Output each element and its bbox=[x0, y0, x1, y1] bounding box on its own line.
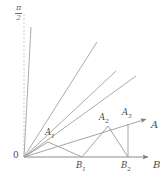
ray-4 bbox=[24, 76, 136, 157]
point-label-a1-subscript: 1 bbox=[51, 133, 54, 139]
ray-1 bbox=[24, 27, 31, 157]
point-label-a3: A3 bbox=[122, 108, 132, 119]
origin-label: 0 bbox=[13, 151, 19, 160]
point-label-b2-subscript: 2 bbox=[127, 166, 130, 172]
point-label-a3-subscript: 3 bbox=[128, 113, 131, 119]
point-label-b2: B2 bbox=[121, 161, 131, 172]
angle-max-denominator: 2 bbox=[15, 14, 22, 22]
triangle-2 bbox=[82, 126, 128, 157]
angle-max-numerator: π bbox=[15, 4, 22, 12]
point-label-a2-subscript: 2 bbox=[105, 118, 108, 124]
ray-a-label: A bbox=[151, 120, 158, 130]
axis-b-label: B bbox=[153, 160, 160, 170]
point-label-a1: A1 bbox=[45, 128, 55, 139]
point-label-b1: B1 bbox=[76, 161, 86, 172]
point-label-a2: A2 bbox=[99, 113, 109, 124]
figure-canvas bbox=[0, 0, 167, 182]
angle-max-label: π 2 bbox=[15, 4, 22, 23]
point-label-b1-subscript: 1 bbox=[82, 166, 85, 172]
figure-container: π 2 0 A1 A2 A3 B1 B2 A B bbox=[0, 0, 167, 182]
